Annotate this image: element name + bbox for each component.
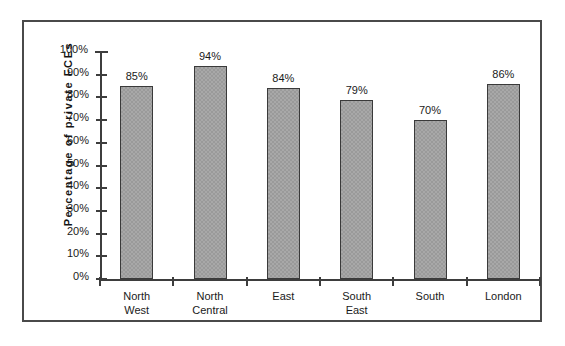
y-axis-tick: 10% xyxy=(96,255,107,257)
x-axis-tick xyxy=(246,277,248,286)
bar[interactable]: 79% xyxy=(340,100,373,279)
x-axis-category-line: South xyxy=(320,289,393,303)
bar[interactable]: 94% xyxy=(194,66,227,279)
bar[interactable]: 85% xyxy=(120,86,153,279)
x-axis-tick xyxy=(172,277,174,286)
x-axis-tick xyxy=(319,277,321,286)
y-axis-tick-label: 30% xyxy=(43,202,89,214)
x-axis-tick xyxy=(539,277,541,286)
bar-value-label: 79% xyxy=(346,84,368,96)
x-axis-category-label: London xyxy=(467,289,540,303)
y-axis-tick-label: 70% xyxy=(43,111,89,123)
y-axis-tick-label: 20% xyxy=(43,225,89,237)
chart-frame: Percentage of private FCEs 100%90%80%70%… xyxy=(22,20,542,322)
y-axis-tick-label: 80% xyxy=(43,88,89,100)
x-axis-category-line: West xyxy=(100,303,173,317)
x-axis-category-line: East xyxy=(320,303,393,317)
y-axis-tick-label: 100% xyxy=(42,43,88,55)
plot-area: 100%90%80%70%60%50%40%30%20%10%0% 85%94%… xyxy=(100,52,540,279)
y-axis-tick: 50% xyxy=(96,165,107,167)
x-axis-category-line: North xyxy=(100,289,173,303)
y-axis-tick: 40% xyxy=(96,187,107,189)
bar[interactable]: 70% xyxy=(414,120,447,279)
x-axis-category-line: South xyxy=(393,289,466,303)
y-axis-tick: 70% xyxy=(96,119,107,121)
y-axis-tick-label: 90% xyxy=(43,66,89,78)
x-axis-category-line: North xyxy=(173,289,246,303)
x-axis-category-label: SouthEast xyxy=(320,289,393,317)
x-axis-category-line: Central xyxy=(173,303,246,317)
bar-value-label: 84% xyxy=(272,72,294,84)
x-axis-category-label: NorthWest xyxy=(100,289,173,317)
y-axis-tick-label: 40% xyxy=(43,179,89,191)
y-axis-tick: 20% xyxy=(96,233,107,235)
x-axis-category-label: NorthCentral xyxy=(173,289,246,317)
y-axis-tick-label: 10% xyxy=(43,247,89,259)
y-axis-tick: 90% xyxy=(96,74,107,76)
x-axis-category-label: South xyxy=(393,289,466,303)
chart-figure: Percentage of private FCEs 100%90%80%70%… xyxy=(0,0,565,346)
x-axis-tick xyxy=(392,277,394,286)
x-axis-category-line: East xyxy=(247,289,320,303)
y-axis-tick: 30% xyxy=(96,210,107,212)
bar[interactable]: 84% xyxy=(267,88,300,279)
y-axis-tick: 0% xyxy=(96,278,107,280)
bar-value-label: 70% xyxy=(419,104,441,116)
bar-value-label: 94% xyxy=(199,50,221,62)
x-axis-category-label: East xyxy=(247,289,320,303)
y-axis-tick-label: 50% xyxy=(43,157,89,169)
bar-value-label: 85% xyxy=(126,70,148,82)
bar-value-label: 86% xyxy=(492,68,514,80)
y-axis-tick-label: 0% xyxy=(43,270,89,282)
y-axis-tick: 60% xyxy=(96,142,107,144)
x-axis-tick xyxy=(466,277,468,286)
bar[interactable]: 86% xyxy=(487,84,520,279)
y-axis-tick: 100% xyxy=(95,51,108,53)
y-axis-tick-label: 60% xyxy=(43,134,89,146)
y-axis-tick: 80% xyxy=(96,96,107,98)
x-axis-category-line: London xyxy=(467,289,540,303)
x-axis-tick xyxy=(99,277,101,286)
